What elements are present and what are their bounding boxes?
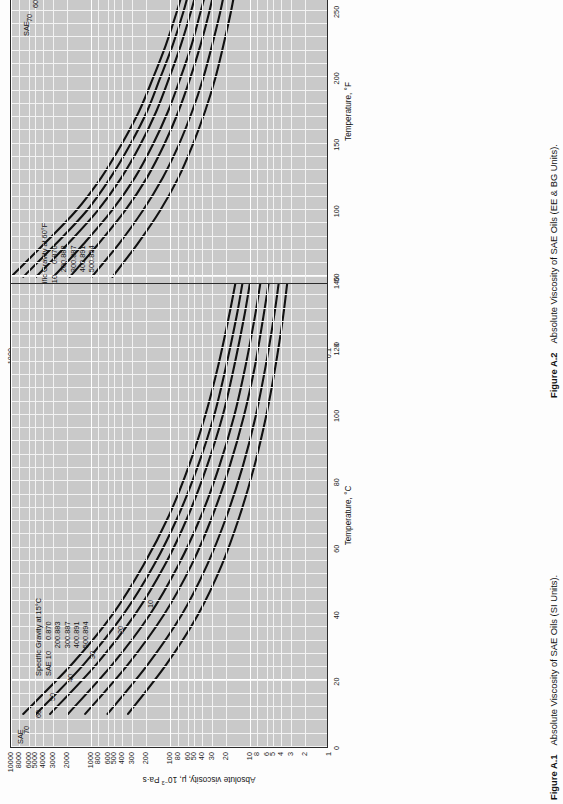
curve-group-a1 <box>11 284 327 747</box>
gridline-horizontal <box>35 284 36 747</box>
y-tick-label: 40 <box>196 749 205 796</box>
gridline-horizontal <box>29 284 30 747</box>
gridline-vertical-minor <box>11 494 327 495</box>
gridline-vertical-minor <box>11 50 327 51</box>
gridline-horizontal <box>257 284 258 747</box>
x-tick-label: 140 <box>332 277 341 289</box>
sae-series-label: 30 <box>88 651 97 659</box>
x-tick-label: 80 <box>332 478 341 486</box>
y-tick-label: 800 <box>93 749 102 796</box>
legend-row: 500.894 <box>81 598 90 676</box>
gridline-vertical-minor <box>11 427 327 428</box>
x-tick-label: 0 <box>332 746 341 750</box>
legend-row-sae: SAE 10 <box>44 640 53 676</box>
gridline-vertical-minor <box>11 143 327 144</box>
gridline-horizontal <box>291 284 292 747</box>
gridline-vertical-minor <box>11 573 327 574</box>
y-tick-label: 2 <box>300 749 309 796</box>
gridline-vertical-minor <box>11 129 327 130</box>
gridline-vertical-minor <box>11 480 327 481</box>
x-axis-title-a1: Temperature, °C <box>344 283 353 748</box>
gridline-horizontal <box>226 284 227 747</box>
x-tick-label: 250 <box>332 6 341 18</box>
gridline-horizontal <box>194 284 195 747</box>
gridline-vertical-minor <box>11 401 327 402</box>
gridline-vertical-minor <box>11 733 327 734</box>
x-tick-label: 100 <box>332 410 341 422</box>
y-tick-label: 4 <box>276 749 285 796</box>
legend-row: 200.883 <box>53 598 62 676</box>
gridline-vertical-minor <box>11 560 327 561</box>
gridline-vertical-minor <box>11 76 327 77</box>
gridline-vertical-minor <box>11 374 327 375</box>
gridline-vertical-minor <box>11 90 327 91</box>
sae-series-label: 40 <box>66 674 75 682</box>
y-tick-label: 2000 <box>61 749 70 796</box>
legend-row-value: 0.891 <box>72 622 81 641</box>
legend-row-sae: 40 <box>72 640 81 676</box>
sae-series-label: 70 <box>22 726 31 734</box>
gridline-vertical-minor <box>11 467 327 468</box>
sae-series-label: 60 <box>34 710 43 718</box>
gridline-vertical-minor <box>11 209 327 210</box>
scanned-page: 1000800600500400300200100806050403020108… <box>0 0 563 804</box>
caption-number: Figure A.2 <box>548 353 559 399</box>
gridline-vertical-minor <box>11 334 327 335</box>
gridline-vertical-minor <box>11 746 327 747</box>
gridline-horizontal <box>188 284 189 747</box>
gridline-vertical-minor <box>11 63 327 64</box>
gridline-horizontal <box>108 284 109 747</box>
y-axis-title-a1: Absolute viscosity, μ, 10−3 Pa·s <box>40 775 358 786</box>
gridline-horizontal <box>132 284 133 747</box>
gridline-horizontal <box>53 284 54 747</box>
gridline-horizontal <box>267 284 268 747</box>
gridline-horizontal <box>202 284 203 747</box>
y-tick-label: 8 <box>252 749 261 796</box>
gridline-horizontal <box>19 284 20 747</box>
caption-number: Figure A.1 <box>548 755 559 801</box>
legend-title: Specific Gravity at 15°C <box>34 598 43 676</box>
gridline-vertical-minor <box>11 321 327 322</box>
gridline-horizontal <box>98 284 99 747</box>
legend-row: 400.891 <box>72 598 81 676</box>
sae-series-header: SAE <box>22 21 31 36</box>
sae-series-label: 50 <box>48 693 57 701</box>
caption-text: Absolute Viscosity of SAE Oils (SI Units… <box>548 575 559 746</box>
gridline-horizontal <box>114 284 115 747</box>
x-tick-label: 150 <box>332 139 341 151</box>
gridline-vertical-minor <box>11 36 327 37</box>
y-tick-label: 20 <box>220 749 229 796</box>
y-tick-label: 400 <box>117 749 126 796</box>
gridline-vertical-minor <box>11 706 327 707</box>
gridline-vertical-minor <box>11 103 327 104</box>
gridline-vertical-minor <box>11 507 327 508</box>
gridline-vertical-minor <box>11 361 327 362</box>
specific-gravity-legend-a1: Specific Gravity at 15°C SAE 100.870200.… <box>34 598 90 676</box>
y-tick-label: 3 <box>286 749 295 796</box>
exponent: −3 <box>162 780 168 786</box>
sae-series-label: 20 <box>116 626 125 634</box>
legend-row-value: 0.870 <box>44 622 53 641</box>
gridline-vertical-minor <box>11 183 327 184</box>
gridline-horizontal <box>170 284 171 747</box>
y-tick-label: 1 <box>324 749 333 796</box>
sae-series-label: 70 <box>25 14 34 22</box>
y-tick-label: 30 <box>206 749 215 796</box>
x-tick-label: 120 <box>332 343 341 355</box>
x-tick-label: 20 <box>332 678 341 686</box>
gridline-horizontal <box>122 284 123 747</box>
y-tick-label: 8000 <box>13 749 22 796</box>
gridline-horizontal <box>212 284 213 747</box>
gridline-vertical-minor <box>11 196 327 197</box>
gridline-vertical-minor <box>11 169 327 170</box>
y-tick-label: 80 <box>172 749 181 796</box>
gridline-vertical-minor <box>11 156 327 157</box>
y-tick-label: 4000 <box>37 749 46 796</box>
x-tick-label: 200 <box>332 72 341 84</box>
gridline-horizontal <box>250 284 251 747</box>
legend-row-sae: 20 <box>53 640 62 676</box>
gridline-horizontal <box>281 284 282 747</box>
gridline-vertical-minor <box>11 587 327 588</box>
sae-series-label: 60 <box>31 0 40 8</box>
figure-caption-a2: Figure A.2Absolute Viscosity of SAE Oils… <box>548 144 559 398</box>
